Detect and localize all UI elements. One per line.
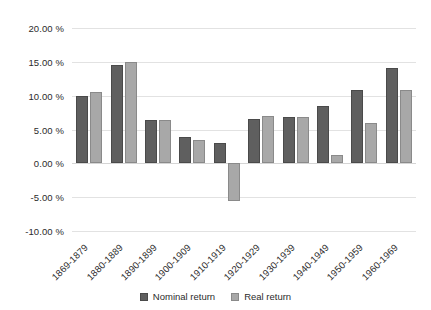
legend-item[interactable]: Nominal return — [140, 291, 215, 302]
bar-group — [347, 28, 381, 231]
x-axis-tick-label: 1920-1929 — [222, 242, 263, 283]
bar-real — [400, 90, 412, 163]
x-axis-labels: 1869-18791880-18891890-18991900-19091910… — [72, 231, 416, 283]
y-axis-tick-label: -5.00 % — [31, 192, 64, 203]
chart-legend: Nominal returnReal return — [0, 291, 431, 302]
bar-nominal — [283, 117, 295, 163]
bar-real — [228, 163, 240, 200]
bar-real — [365, 123, 377, 164]
bar-real — [297, 117, 309, 164]
bar-group — [313, 28, 347, 231]
x-axis-tick-label: 1950-1959 — [325, 242, 366, 283]
bar-chart: 20.00 %15.00 %10.00 %5.00 %0.00 %-5.00 %… — [0, 0, 431, 310]
bar-group — [141, 28, 175, 231]
x-axis-tick-label: 1930-1939 — [256, 242, 297, 283]
y-axis-tick-label: 5.00 % — [34, 124, 64, 135]
bar-real — [125, 62, 137, 164]
y-axis-tick-label: 0.00 % — [34, 158, 64, 169]
legend-swatch-icon — [140, 293, 148, 301]
y-axis-tick-label: 10.00 % — [28, 90, 64, 101]
bar-group — [244, 28, 278, 231]
bar-nominal — [351, 90, 363, 163]
bar-real — [331, 155, 343, 164]
bar-real — [262, 116, 274, 163]
bar-nominal — [179, 137, 191, 163]
legend-item[interactable]: Real return — [231, 291, 291, 302]
bar-real — [90, 92, 102, 164]
legend-label: Nominal return — [153, 291, 215, 302]
bar-nominal — [145, 120, 157, 163]
bar-nominal — [76, 96, 88, 164]
x-axis-tick-label: 1910-1919 — [187, 242, 228, 283]
bar-group — [175, 28, 209, 231]
bar-group — [210, 28, 244, 231]
bar-group — [382, 28, 416, 231]
bar-group — [278, 28, 312, 231]
bar-nominal — [317, 106, 329, 163]
bar-nominal — [111, 65, 123, 164]
bar-group — [72, 28, 106, 231]
bar-group — [106, 28, 140, 231]
bar-real — [159, 120, 171, 163]
bar-nominal — [248, 119, 260, 163]
legend-swatch-icon — [231, 293, 239, 301]
x-axis-tick-label: 1869-1879 — [50, 242, 91, 283]
bar-groups — [72, 28, 416, 231]
bar-nominal — [214, 143, 226, 163]
y-axis-tick-label: 15.00 % — [28, 56, 64, 67]
x-axis-tick-label: 1940-1949 — [290, 242, 331, 283]
plot-area — [72, 28, 416, 231]
y-axis-tick-label: -10.00 % — [25, 226, 64, 237]
x-axis-tick-label: 1890-1899 — [118, 242, 159, 283]
bar-real — [193, 140, 205, 163]
legend-label: Real return — [244, 291, 291, 302]
x-axis-tick-label: 1960-1969 — [359, 242, 400, 283]
bar-nominal — [386, 68, 398, 163]
x-axis-tick-label: 1880-1889 — [84, 242, 125, 283]
x-axis-tick-label: 1900-1909 — [153, 242, 194, 283]
y-axis-labels: 20.00 %15.00 %10.00 %5.00 %0.00 %-5.00 %… — [0, 28, 72, 231]
y-axis-tick-label: 20.00 % — [28, 23, 64, 34]
